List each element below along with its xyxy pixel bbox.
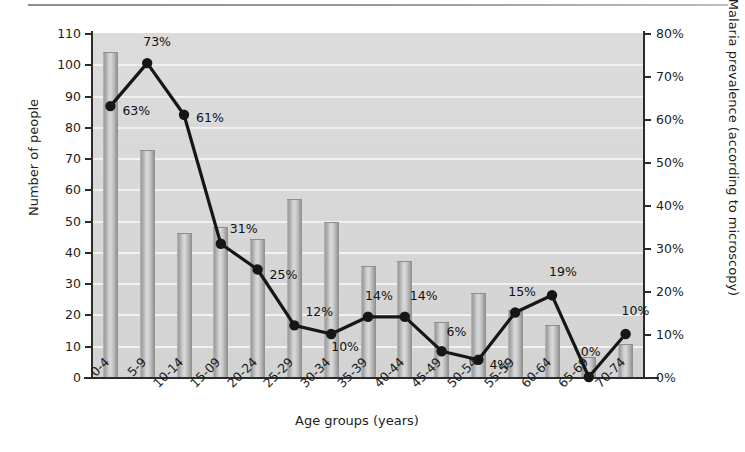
data-point-label: 19% (549, 264, 577, 279)
left-tick-label: 100 (41, 57, 81, 72)
left-y-axis-title: Number of people (26, 33, 41, 283)
right-tick-label: 80% (656, 26, 702, 41)
right-tick-mark (644, 162, 651, 164)
data-point-label: 12% (305, 304, 333, 319)
right-tick-mark (644, 291, 651, 293)
gridline (92, 127, 644, 129)
bar (287, 199, 302, 377)
data-point-label: 10% (622, 303, 650, 318)
left-tick-label: 60 (41, 182, 81, 197)
right-tick-label: 30% (656, 241, 702, 256)
left-tick-label: 40 (41, 244, 81, 259)
right-tick-label: 10% (656, 327, 702, 342)
plot-area (92, 33, 644, 377)
gridline (92, 96, 644, 98)
right-tick-label: 70% (656, 69, 702, 84)
data-point-label: 15% (508, 284, 536, 299)
bar (177, 233, 192, 377)
gridline (92, 189, 644, 191)
left-tick-label: 80 (41, 119, 81, 134)
right-tick-label: 20% (656, 284, 702, 299)
data-point-label: 31% (230, 221, 258, 236)
data-point-label: 61% (196, 110, 224, 125)
data-point-label: 63% (122, 103, 150, 118)
left-tick-mark (85, 283, 92, 285)
right-y-axis-title: Malaria prevalence (according to microsc… (726, 0, 741, 298)
data-point-label: 25% (270, 267, 298, 282)
left-tick-mark (85, 127, 92, 129)
right-tick-label: 50% (656, 155, 702, 170)
top-divider (28, 4, 728, 6)
data-point-label: 6% (447, 324, 467, 339)
bar (213, 227, 228, 377)
left-tick-label: 50 (41, 213, 81, 228)
left-tick-mark (85, 377, 92, 379)
left-tick-mark (85, 314, 92, 316)
gridline (92, 221, 644, 223)
left-tick-mark (85, 96, 92, 98)
data-point-label: 14% (365, 288, 393, 303)
data-point-label: 10% (331, 339, 359, 354)
left-tick-label: 20 (41, 307, 81, 322)
right-y-axis-ticks: 0%10%20%30%40%50%60%70%80% (656, 0, 706, 452)
right-tick-mark (644, 334, 651, 336)
data-point-label: 0% (581, 344, 601, 359)
chart-figure: 0102030405060708090100110 0%10%20%30%40%… (0, 0, 745, 452)
x-axis-title: Age groups (years) (247, 413, 467, 428)
gridline (92, 158, 644, 160)
left-tick-label: 90 (41, 88, 81, 103)
right-tick-mark (644, 33, 651, 35)
right-tick-label: 60% (656, 112, 702, 127)
gridline (92, 64, 644, 66)
left-axis-line (91, 31, 93, 379)
left-tick-mark (85, 158, 92, 160)
left-tick-label: 110 (41, 26, 81, 41)
left-tick-mark (85, 221, 92, 223)
right-tick-mark (644, 248, 651, 250)
left-tick-mark (85, 346, 92, 348)
right-tick-mark (644, 205, 651, 207)
left-tick-mark (85, 64, 92, 66)
data-point-label: 14% (410, 288, 438, 303)
bar (103, 52, 118, 377)
left-tick-label: 30 (41, 276, 81, 291)
left-tick-label: 10 (41, 338, 81, 353)
right-tick-label: 0% (656, 370, 702, 385)
data-point-label: 4% (489, 357, 509, 372)
left-tick-mark (85, 252, 92, 254)
bar (140, 150, 155, 377)
right-tick-mark (644, 76, 651, 78)
right-tick-mark (644, 377, 651, 379)
left-tick-mark (85, 189, 92, 191)
gridline (92, 252, 644, 254)
left-tick-label: 70 (41, 151, 81, 166)
data-point-label: 73% (143, 34, 171, 49)
right-tick-mark (644, 119, 651, 121)
right-tick-label: 40% (656, 198, 702, 213)
left-tick-mark (85, 33, 92, 35)
